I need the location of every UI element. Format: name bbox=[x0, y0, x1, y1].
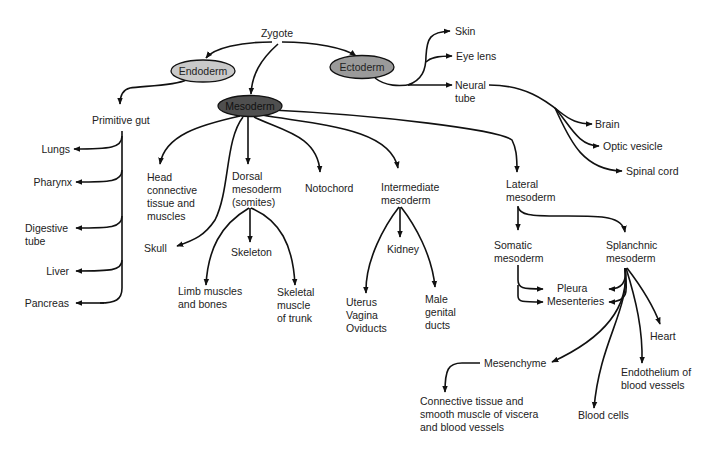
edge-zygote-mesoderm bbox=[251, 44, 278, 94]
node-mesenteries: Mesenteries bbox=[547, 295, 604, 307]
node-primitive-gut: Primitive gut bbox=[92, 114, 150, 126]
lateral-line2: mesoderm bbox=[506, 191, 556, 203]
edge-gut-liver bbox=[76, 260, 122, 271]
uterus-line1: Uterus bbox=[346, 296, 377, 308]
head-line1: Head bbox=[147, 171, 172, 183]
node-blood-cells: Blood cells bbox=[578, 409, 629, 421]
dorsal-line3: (somites) bbox=[232, 196, 275, 208]
node-pancreas: Pancreas bbox=[25, 297, 69, 309]
edge-gut-lungs bbox=[74, 136, 122, 149]
somatic-line2: mesoderm bbox=[494, 252, 544, 264]
node-head-connective: Head connective tissue and muscles bbox=[147, 171, 197, 222]
uterus-line2: Vagina bbox=[346, 309, 378, 321]
node-skeletal-muscle: Skeletal muscle of trunk bbox=[277, 286, 314, 324]
node-optic-vesicle: Optic vesicle bbox=[603, 140, 663, 152]
germ-layer-diagram: Zygote Endoderm Ectoderm Mesoderm Skin E… bbox=[0, 0, 713, 452]
edge-gut-trunk bbox=[100, 131, 122, 303]
node-liver: Liver bbox=[46, 265, 69, 277]
node-pleura: Pleura bbox=[557, 282, 588, 294]
ectoderm-label: Ectoderm bbox=[340, 61, 385, 73]
node-eye-lens: Eye lens bbox=[456, 50, 496, 62]
node-heart: Heart bbox=[650, 330, 676, 342]
node-splanchnic-mesoderm: Splanchnic mesoderm bbox=[606, 239, 657, 264]
node-lungs: Lungs bbox=[41, 143, 70, 155]
node-endoderm: Endoderm bbox=[171, 60, 235, 82]
node-skull: Skull bbox=[144, 242, 167, 254]
node-brain: Brain bbox=[595, 118, 620, 130]
intermediate-line1: Intermediate bbox=[381, 181, 440, 193]
node-kidney: Kidney bbox=[387, 243, 420, 255]
edge-ectoderm-trunk bbox=[375, 78, 412, 86]
male-line1: Male bbox=[425, 293, 448, 305]
node-digestive-tube: Digestive tube bbox=[25, 222, 68, 247]
edge-endoderm-gut bbox=[120, 80, 186, 104]
head-line4: muscles bbox=[147, 210, 186, 222]
node-notochord: Notochord bbox=[305, 182, 354, 194]
edge-meso-head bbox=[160, 116, 240, 164]
edge-zygote-ectoderm bbox=[282, 42, 356, 56]
male-line2: genital bbox=[425, 306, 456, 318]
connective-line2: smooth muscle of viscera bbox=[420, 408, 539, 420]
dorsal-line1: Dorsal bbox=[232, 170, 262, 182]
skeletal-line2: muscle bbox=[277, 299, 310, 311]
digestive-line1: Digestive bbox=[25, 222, 68, 234]
somatic-line1: Somatic bbox=[494, 239, 532, 251]
node-intermediate-mesoderm: Intermediate mesoderm bbox=[381, 181, 440, 206]
male-line3: ducts bbox=[425, 319, 450, 331]
lateral-line1: Lateral bbox=[506, 178, 538, 190]
edge-ectoderm-skin bbox=[408, 31, 450, 85]
intermediate-line2: mesoderm bbox=[381, 194, 431, 206]
edge-splanchnic-heart bbox=[627, 268, 660, 324]
head-line3: tissue and bbox=[147, 197, 195, 209]
node-uterus: Uterus Vagina Oviducts bbox=[346, 296, 387, 334]
limb-line1: Limb muscles bbox=[178, 285, 242, 297]
edge-meso-intermediate bbox=[262, 115, 398, 168]
node-mesoderm: Mesoderm bbox=[218, 96, 282, 117]
edge-zygote-endoderm bbox=[206, 42, 272, 58]
digestive-line2: tube bbox=[25, 235, 46, 247]
edge-splanchnic-endothelium bbox=[626, 268, 642, 363]
mesoderm-label: Mesoderm bbox=[225, 100, 275, 112]
edge-meso-lateral bbox=[272, 110, 517, 172]
splanchnic-line2: mesoderm bbox=[606, 252, 656, 264]
connective-line1: Connective tissue and bbox=[420, 395, 523, 407]
connective-line3: and blood vessels bbox=[420, 421, 504, 433]
edge-splanchnic-pleura bbox=[609, 268, 625, 289]
edge-lateral-splanchnic bbox=[518, 207, 625, 232]
node-somatic-mesoderm: Somatic mesoderm bbox=[494, 239, 544, 264]
endothelium-line2: blood vessels bbox=[621, 379, 685, 391]
dorsal-line2: mesoderm bbox=[232, 183, 282, 195]
head-line2: connective bbox=[147, 184, 197, 196]
edge-gut-digestive bbox=[76, 216, 122, 228]
node-male-genital: Male genital ducts bbox=[425, 293, 456, 331]
node-connective-tissue: Connective tissue and smooth muscle of v… bbox=[420, 395, 539, 433]
node-limb-muscles: Limb muscles and bones bbox=[178, 285, 242, 310]
neural-tube-line1: Neural bbox=[455, 79, 486, 91]
node-lateral-mesoderm: Lateral mesoderm bbox=[506, 178, 556, 203]
node-dorsal-mesoderm: Dorsal mesoderm (somites) bbox=[232, 170, 282, 208]
node-spinal-cord: Spinal cord bbox=[626, 165, 679, 177]
endoderm-label: Endoderm bbox=[179, 65, 228, 77]
node-neural-tube: Neural tube bbox=[455, 79, 486, 104]
node-skin: Skin bbox=[455, 25, 476, 37]
edge-somatic-pleura bbox=[518, 265, 543, 289]
node-endothelium: Endothelium of blood vessels bbox=[621, 366, 691, 391]
endothelium-line1: Endothelium of bbox=[621, 366, 691, 378]
node-ectoderm: Ectoderm bbox=[330, 56, 394, 79]
edge-meso-notochord bbox=[254, 117, 320, 172]
limb-line2: and bones bbox=[178, 298, 227, 310]
node-pharynx: Pharynx bbox=[33, 176, 72, 188]
splanchnic-line1: Splanchnic bbox=[606, 239, 657, 251]
uterus-line3: Oviducts bbox=[346, 322, 387, 334]
node-zygote: Zygote bbox=[261, 27, 293, 39]
skeletal-line3: of trunk bbox=[277, 312, 313, 324]
edge-gut-pharynx bbox=[76, 170, 122, 182]
node-mesenchyme: Mesenchyme bbox=[484, 357, 547, 369]
neural-tube-line2: tube bbox=[455, 92, 476, 104]
node-skeleton: Skeleton bbox=[231, 246, 272, 258]
skeletal-line1: Skeletal bbox=[277, 286, 314, 298]
edge-ectoderm-eyelens bbox=[426, 56, 452, 62]
edge-mesenchyme-connective bbox=[445, 363, 480, 392]
edge-neural-brain bbox=[489, 85, 592, 124]
